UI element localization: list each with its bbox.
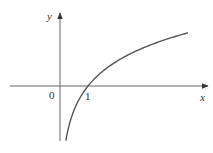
x-axis-label: x	[200, 92, 205, 103]
origin-label: 0	[49, 90, 55, 101]
tick-label-one: 1	[85, 91, 91, 102]
y-axis-label: y	[47, 11, 52, 22]
log-curve	[66, 33, 188, 141]
log-graph	[0, 0, 213, 153]
